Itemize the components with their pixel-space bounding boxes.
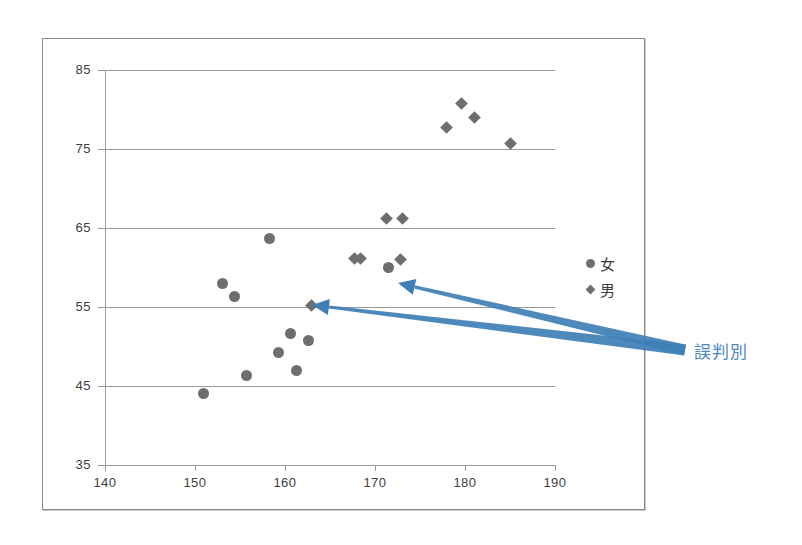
data-point-female (198, 388, 209, 399)
gridline-y (105, 228, 555, 229)
legend-label-male: 男 (600, 279, 615, 300)
data-point-male (394, 253, 407, 266)
y-tick-label: 35 (57, 457, 91, 472)
annotation-text: 誤判別 (694, 338, 748, 363)
scatter-chart: 354555657585 140150160170180190 (0, 0, 802, 545)
y-tick-label: 65 (57, 220, 91, 235)
data-point-male (397, 212, 410, 225)
y-tick-label: 85 (57, 62, 91, 77)
y-tick-label: 55 (57, 299, 91, 314)
gridline-y (105, 149, 555, 150)
x-tick (555, 465, 556, 471)
gridline-y (105, 386, 555, 387)
chart-legend: 女 男 (583, 250, 653, 302)
data-point-male (469, 111, 482, 124)
y-tick (98, 386, 105, 387)
data-point-male (380, 212, 393, 225)
y-tick (98, 228, 105, 229)
x-tick-label: 190 (535, 475, 575, 490)
data-point-female (383, 262, 394, 273)
y-tick-label: 75 (57, 141, 91, 156)
data-point-male (504, 137, 517, 150)
legend-item-male: 男 (583, 276, 653, 302)
legend-item-female: 女 (583, 250, 653, 276)
x-tick (195, 465, 196, 471)
x-tick (465, 465, 466, 471)
data-point-female (273, 347, 284, 358)
gridline-y (105, 307, 555, 308)
x-tick (285, 465, 286, 471)
diamond-marker-icon (583, 286, 597, 293)
data-point-female (303, 335, 314, 346)
circle-marker-icon (583, 259, 597, 268)
y-tick (98, 70, 105, 71)
data-point-female (285, 328, 296, 339)
x-tick-label: 170 (355, 475, 395, 490)
gridline-y (105, 465, 555, 466)
x-tick-label: 160 (265, 475, 305, 490)
data-point-male (455, 97, 468, 110)
data-point-female (291, 365, 302, 376)
y-axis-line (105, 70, 106, 465)
x-tick-label: 180 (445, 475, 485, 490)
y-tick (98, 149, 105, 150)
data-point-female (229, 291, 240, 302)
legend-label-female: 女 (600, 253, 615, 274)
y-tick-label: 45 (57, 378, 91, 393)
y-tick (98, 465, 105, 466)
x-tick-label: 140 (85, 475, 125, 490)
x-tick (375, 465, 376, 471)
gridline-y (105, 70, 555, 71)
data-point-female (264, 233, 275, 244)
x-tick (105, 465, 106, 471)
data-point-female (217, 278, 228, 289)
data-point-female (241, 370, 252, 381)
y-tick (98, 307, 105, 308)
data-point-male (440, 121, 453, 134)
data-point-male (305, 299, 318, 312)
x-tick-label: 150 (175, 475, 215, 490)
